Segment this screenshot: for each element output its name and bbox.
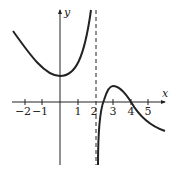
x-axis-arrow-icon xyxy=(161,100,166,104)
left-branch-curve xyxy=(13,10,91,76)
svg-text:−2: −2 xyxy=(15,105,31,118)
function-graph: x y −2 −1 1 2 3 4 5 xyxy=(0,0,175,177)
svg-text:5: 5 xyxy=(145,105,152,118)
svg-text:−1: −1 xyxy=(32,105,48,118)
x-axis-label: x xyxy=(162,87,169,100)
y-axis-label: y xyxy=(63,6,71,19)
y-axis-arrow-icon xyxy=(58,9,62,14)
right-branch-curve xyxy=(98,86,165,165)
x-tick-labels: −2 −1 1 2 3 4 5 xyxy=(15,105,152,118)
svg-text:1: 1 xyxy=(75,105,82,118)
svg-text:3: 3 xyxy=(110,105,117,118)
